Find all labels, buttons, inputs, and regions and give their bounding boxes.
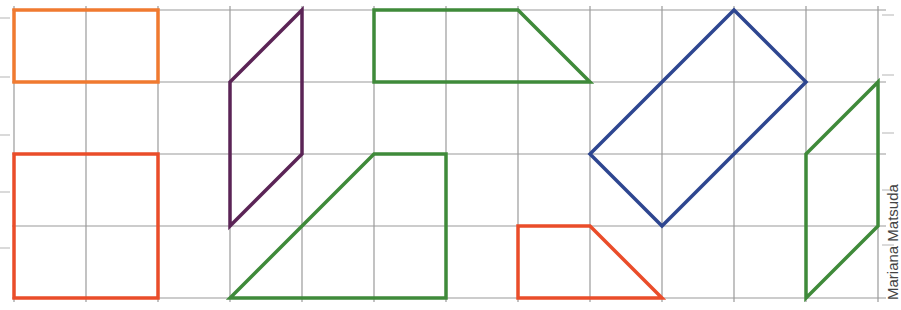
photo-credit: Mariana Matsuda: [884, 184, 901, 300]
green-trapezoid-top: [374, 10, 590, 82]
purple-parallelogram: [230, 10, 302, 226]
blue-rotated-rectangle: [590, 10, 806, 226]
green-parallelogram-right: [806, 82, 878, 298]
